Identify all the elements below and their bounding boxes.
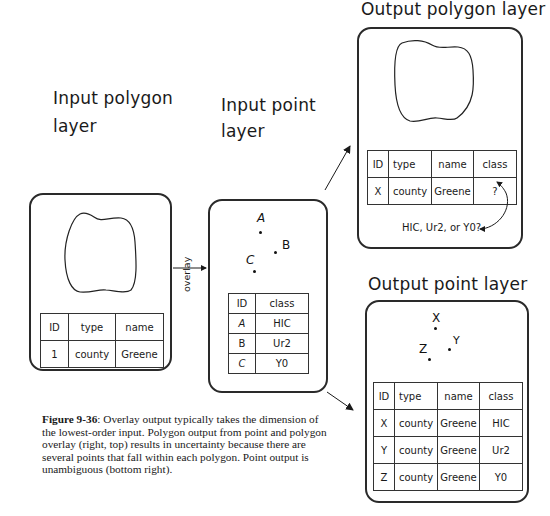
point-label-y: Y xyxy=(453,334,460,347)
output-polygon-panel xyxy=(357,27,523,249)
table-cell: Greene xyxy=(438,464,480,491)
table-cell: X xyxy=(368,178,389,205)
table-header: class xyxy=(256,294,309,314)
input-point-title: Input point layer xyxy=(221,93,316,143)
output-polygon-table: ID type name class X county Greene ? xyxy=(367,150,517,205)
table-cell: X xyxy=(374,410,395,437)
point-label-c: C xyxy=(246,253,254,267)
table-cell: county xyxy=(69,341,116,368)
table-cell-uncertain: ? xyxy=(474,178,517,205)
table-cell: HIC xyxy=(480,410,523,437)
overlay-arrow-label: overlay xyxy=(181,257,192,292)
figure-caption: Figure 9-36: Overlay output typically ta… xyxy=(42,413,327,476)
output-point-table: ID type name class X county Greene HIC Y… xyxy=(373,382,523,491)
table-header: ID xyxy=(368,151,389,178)
table-row: A HIC xyxy=(229,314,309,334)
table-cell: Ur2 xyxy=(480,437,523,464)
table-cell: Greene xyxy=(438,437,480,464)
table-cell: county xyxy=(395,464,438,491)
table-cell: Greene xyxy=(432,178,474,205)
input-polygon-title-line1: Input polygon xyxy=(53,86,173,110)
table-cell: Y0 xyxy=(256,354,309,374)
table-header: type xyxy=(389,151,432,178)
input-polygon-table: ID type name 1 county Greene xyxy=(40,313,164,368)
point-label-b: B xyxy=(282,238,290,252)
table-header-row: ID class xyxy=(229,294,309,314)
table-header: ID xyxy=(374,383,395,410)
input-point-table: ID class A HIC B Ur2 C Y0 xyxy=(228,293,309,374)
table-row: X county Greene HIC xyxy=(374,410,523,437)
point-z xyxy=(428,358,431,361)
table-cell: Z xyxy=(374,464,395,491)
figure-caption-label: Figure 9-36 xyxy=(42,413,97,425)
uncertainty-note: HIC, Ur2, or Y0? xyxy=(402,222,481,233)
point-c xyxy=(253,270,256,273)
output-polygon-title: Output polygon layer xyxy=(361,0,545,21)
point-b xyxy=(274,251,277,254)
table-cell: county xyxy=(395,437,438,464)
table-row: X county Greene ? xyxy=(368,178,517,205)
table-cell: C xyxy=(229,354,256,374)
table-header-row: ID type name xyxy=(41,314,164,341)
input-polygon-title-line2: layer xyxy=(53,114,173,138)
table-header: name xyxy=(116,314,164,341)
table-cell: Greene xyxy=(438,410,480,437)
table-header: ID xyxy=(41,314,69,341)
point-x xyxy=(434,327,437,330)
table-header: class xyxy=(474,151,517,178)
table-cell: Ur2 xyxy=(256,334,309,354)
table-cell: 1 xyxy=(41,341,69,368)
point-label-z: Z xyxy=(419,342,427,356)
table-row: 1 county Greene xyxy=(41,341,164,368)
input-point-title-line2: layer xyxy=(221,119,316,143)
table-row: Z county Greene Y0 xyxy=(374,464,523,491)
table-cell: county xyxy=(395,410,438,437)
input-point-title-line1: Input point xyxy=(221,93,316,117)
table-cell: Y xyxy=(374,437,395,464)
table-header: name xyxy=(432,151,474,178)
output-point-title: Output point layer xyxy=(368,272,527,296)
table-row: Y county Greene Ur2 xyxy=(374,437,523,464)
input-polygon-title: Input polygon layer xyxy=(53,86,173,138)
table-header: type xyxy=(69,314,116,341)
point-a xyxy=(259,231,262,234)
table-header-row: ID type name class xyxy=(368,151,517,178)
table-header: type xyxy=(395,383,438,410)
table-cell: HIC xyxy=(256,314,309,334)
table-row: C Y0 xyxy=(229,354,309,374)
point-y xyxy=(448,348,451,351)
point-label-x: X xyxy=(432,311,440,325)
table-row: B Ur2 xyxy=(229,334,309,354)
table-cell: B xyxy=(229,334,256,354)
table-header: name xyxy=(438,383,480,410)
table-cell: Greene xyxy=(116,341,164,368)
table-cell: A xyxy=(229,314,256,334)
point-label-a: A xyxy=(257,211,265,225)
table-header: class xyxy=(480,383,523,410)
table-cell: county xyxy=(389,178,432,205)
table-header: ID xyxy=(229,294,256,314)
table-cell: Y0 xyxy=(480,464,523,491)
table-header-row: ID type name class xyxy=(374,383,523,410)
